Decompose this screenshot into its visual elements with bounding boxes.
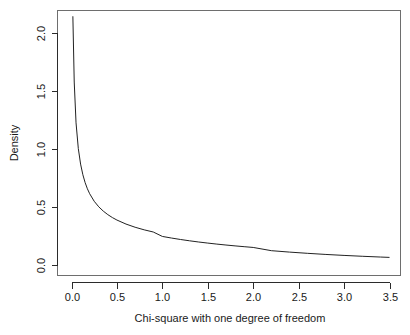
x-tick-marks — [73, 283, 391, 289]
plot-frame — [58, 11, 401, 276]
y-tick-label: 1.0 — [35, 142, 47, 157]
x-tick-label: 1.0 — [155, 291, 170, 303]
y-tick-marks — [52, 34, 58, 266]
y-axis: 0.00.51.01.52.0 Density — [8, 26, 58, 273]
x-axis-title: Chi-square with one degree of freedom — [135, 312, 326, 324]
x-tick-label: 2.5 — [292, 291, 307, 303]
x-tick-label: 0.5 — [110, 291, 125, 303]
x-tick-label: 2.0 — [246, 291, 261, 303]
y-tick-label-group: 0.00.51.01.52.0 — [35, 26, 47, 273]
y-tick-label: 2.0 — [35, 26, 47, 41]
density-curve — [73, 16, 390, 257]
x-tick-label: 3.5 — [383, 291, 398, 303]
x-axis: 0.00.51.01.52.02.53.03.5 Chi-square with… — [65, 283, 398, 325]
chi-square-density-plot: 0.00.51.01.52.0 Density 0.00.51.01.52.02… — [0, 0, 410, 335]
x-tick-label: 1.5 — [201, 291, 216, 303]
x-tick-label-group: 0.00.51.01.52.02.53.03.5 — [65, 291, 398, 303]
y-tick-label: 1.5 — [35, 84, 47, 99]
y-tick-label: 0.0 — [35, 258, 47, 273]
plot-canvas: 0.00.51.01.52.0 Density 0.00.51.01.52.02… — [0, 0, 410, 335]
x-tick-label: 0.0 — [65, 291, 80, 303]
y-tick-label: 0.5 — [35, 200, 47, 215]
y-axis-title: Density — [8, 124, 20, 161]
x-tick-label: 3.0 — [337, 291, 352, 303]
